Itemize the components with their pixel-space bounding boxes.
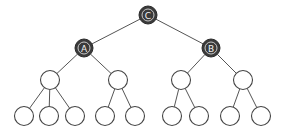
edge-l2c-l3f	[174, 89, 178, 107]
edge-b-l2d	[217, 54, 236, 73]
edge-a-l2b	[91, 54, 112, 73]
tree-node	[126, 107, 145, 126]
tree-node	[190, 107, 209, 126]
tree-node	[163, 107, 182, 126]
edge-l2d-l3h	[233, 89, 240, 107]
node-circle	[41, 71, 60, 90]
node-circle	[234, 71, 253, 90]
edge-l2a-l3c	[55, 88, 69, 108]
edge-c-b	[156, 19, 203, 44]
node-circle	[252, 107, 271, 126]
node-label: A	[81, 44, 88, 54]
tree-node	[96, 107, 115, 126]
node-label: B	[208, 44, 214, 54]
tree-node	[41, 71, 60, 90]
tree-node	[40, 107, 59, 126]
node-circle	[126, 107, 145, 126]
node-label: C	[145, 11, 151, 21]
nodes-layer: CAB	[15, 6, 271, 126]
node-circle	[15, 107, 34, 126]
tree-node	[66, 107, 85, 126]
edge-l2b-l3e	[122, 89, 131, 108]
tree-node	[109, 71, 128, 90]
node-circle	[172, 71, 191, 90]
node-circle	[96, 107, 115, 126]
edge-b-l2c	[187, 55, 204, 74]
edge-l2b-l3d	[108, 89, 115, 107]
tree-node-b: B	[202, 39, 220, 57]
edge-l2c-l3g	[185, 88, 195, 107]
tree-node	[221, 107, 240, 126]
edge-l2d-l3i	[247, 88, 257, 107]
node-circle	[221, 107, 240, 126]
node-circle	[109, 71, 128, 90]
edge-a-l2a	[57, 54, 78, 73]
edge-c-a	[92, 19, 140, 44]
tree-node-c: C	[139, 6, 157, 24]
edge-l2a-l3a	[30, 88, 45, 109]
node-circle	[190, 107, 209, 126]
node-circle	[163, 107, 182, 126]
edges-layer	[30, 19, 257, 108]
tree-node	[252, 107, 271, 126]
tree-node	[15, 107, 34, 126]
tree-node	[234, 71, 253, 90]
tree-node	[172, 71, 191, 90]
node-circle	[66, 107, 85, 126]
tree-node-a: A	[75, 39, 93, 57]
tree-diagram: CAB	[0, 0, 282, 134]
node-circle	[40, 107, 59, 126]
